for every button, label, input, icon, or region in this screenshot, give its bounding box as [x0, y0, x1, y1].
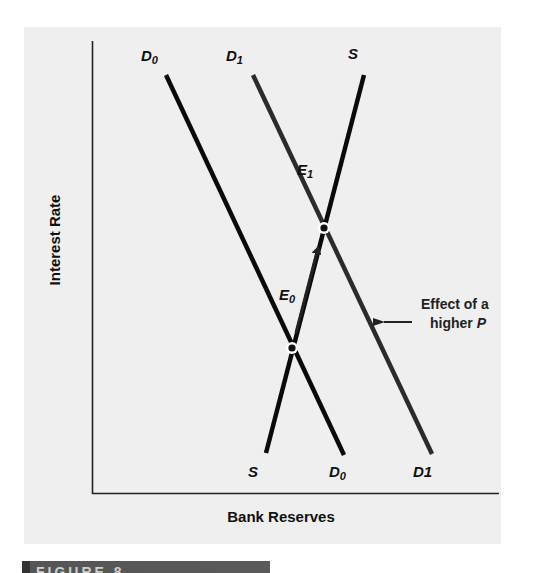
annotation-effect-line2: higher P [430, 315, 487, 331]
demand-curve-d0 [166, 75, 344, 455]
annotation-effect-line1: Effect of a [421, 296, 489, 312]
label-e1: E1 [297, 161, 313, 180]
equilibrium-point-e0 [286, 342, 298, 354]
label-e0: E0 [279, 286, 296, 305]
equilibrium-point-e1 [318, 222, 330, 234]
label-s-top: S [348, 45, 358, 62]
label-d0-top: D0 [141, 47, 159, 66]
label-s-bottom: S [248, 463, 258, 480]
shift-arrow-e0-to-e1 [296, 248, 318, 333]
label-d1-top: D1 [226, 47, 243, 66]
figure-label-bar: FIGURE 8 [22, 561, 270, 573]
label-d1-bottom: D1 [413, 463, 432, 480]
y-axis-title: Interest Rate [46, 195, 63, 286]
label-d0-bottom: D0 [329, 463, 347, 482]
x-axis-title: Bank Reserves [227, 508, 335, 525]
